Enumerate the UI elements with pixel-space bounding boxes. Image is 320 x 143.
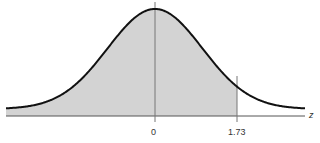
tick-label-zero: 0 — [151, 127, 156, 137]
normal-curve-chart — [0, 0, 320, 143]
axis-label-z: z — [309, 110, 314, 120]
tick-label-cutoff: 1.73 — [228, 127, 246, 137]
shaded-area — [6, 9, 237, 116]
